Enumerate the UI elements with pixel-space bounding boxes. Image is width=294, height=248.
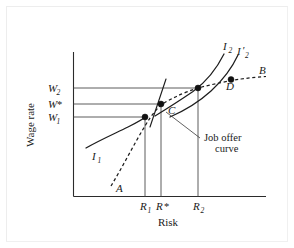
indifference-curve-chart: Wage rate Risk W 2 W * W 1 R 1 R * R 2 I…	[0, 0, 294, 248]
point-label-C: C	[168, 104, 176, 116]
figure-root: Wage rate Risk W 2 W * W 1 R 1 R * R 2 I…	[0, 0, 294, 248]
curve-label-I2-sub: 2	[229, 46, 233, 55]
x-axis-title: Risk	[158, 216, 179, 228]
x-tick-label-rstar-base: R	[155, 200, 163, 212]
x-tick-label-rstar-sup: *	[164, 201, 169, 212]
curve-label-I2-base: I	[222, 40, 228, 52]
point-labels: A B C D	[115, 64, 266, 194]
y-axis-title: Wage rate	[24, 103, 36, 147]
y-tick-label-w2-sub: 2	[57, 88, 61, 97]
point-label-A: A	[115, 182, 123, 194]
x-tick-label-r2-sub: 2	[201, 206, 205, 215]
job-offer-callout-line1: Job offer	[204, 132, 242, 143]
point-marker-r1w1	[142, 114, 148, 120]
x-tick-labels: R 1 R * R 2	[139, 200, 205, 215]
job-offer-curve-callout: Job offer curve	[204, 132, 242, 154]
x-tick-label-r1-sub: 1	[148, 206, 152, 215]
x-tick-label-r2-base: R	[192, 200, 200, 212]
curve-label-I1-base: I	[91, 150, 97, 162]
point-label-D: D	[225, 80, 234, 92]
y-tick-label-wstar-sup: *	[57, 99, 62, 110]
point-label-B: B	[259, 64, 266, 76]
point-marker-c	[158, 101, 164, 107]
indifference-curve-I1	[86, 117, 146, 149]
y-tick-labels: W 2 W * W 1	[48, 82, 62, 126]
curve-label-I2prime-sub: 2	[245, 51, 249, 60]
job-offer-curve	[111, 77, 266, 187]
point-marker-r2w2	[195, 85, 201, 91]
job-offer-callout-line2: curve	[215, 143, 239, 154]
x-tick-label-r1-base: R	[139, 200, 147, 212]
curve-label-I1-sub: 1	[98, 156, 102, 165]
axes-group	[74, 52, 267, 197]
y-tick-label-w1-sub: 1	[57, 117, 61, 126]
